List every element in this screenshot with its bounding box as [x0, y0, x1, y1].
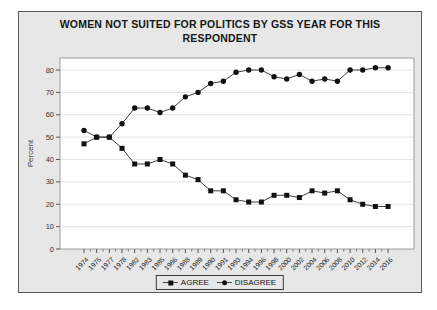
chart-legend: AGREE DISAGREE: [156, 275, 284, 290]
data-point-disagree: [233, 70, 238, 75]
data-point-disagree: [107, 134, 112, 139]
legend-item-agree: AGREE: [163, 278, 209, 287]
x-tick-label: 1986: [163, 256, 179, 272]
y-tick-label: 30: [46, 177, 54, 186]
data-point-disagree: [360, 67, 365, 72]
x-tick-label: 1975: [87, 256, 103, 272]
x-tick-label: 2006: [315, 256, 331, 272]
data-point-agree: [208, 188, 213, 193]
data-point-disagree: [246, 67, 251, 72]
data-point-disagree: [271, 74, 276, 79]
data-point-disagree: [157, 110, 162, 115]
y-tick-label: 70: [46, 88, 54, 97]
x-tick-label: 1998: [264, 256, 280, 272]
x-tick-label: 1990: [201, 256, 217, 272]
data-point-disagree: [322, 76, 327, 81]
x-tick-label: 1994: [239, 256, 255, 272]
legend-item-disagree: DISAGREE: [217, 278, 276, 287]
legend-label-disagree: DISAGREE: [235, 278, 276, 287]
data-point-agree: [132, 161, 137, 166]
x-tick-label: 2008: [327, 256, 343, 272]
x-tick-label: 1993: [226, 256, 242, 272]
data-point-disagree: [132, 105, 137, 110]
x-tick-label: 1978: [112, 256, 128, 272]
y-tick-label: 0: [50, 245, 54, 254]
agree-line-marker-icon: [163, 278, 178, 287]
data-point-disagree: [385, 65, 390, 70]
data-point-agree: [322, 191, 327, 196]
data-point-agree: [234, 197, 239, 202]
data-point-disagree: [347, 67, 352, 72]
x-tick-label: 2000: [277, 256, 293, 272]
y-tick-label: 50: [46, 133, 54, 142]
data-point-disagree: [309, 78, 314, 83]
y-tick-label: 80: [46, 66, 54, 75]
data-point-agree: [170, 161, 175, 166]
y-tick-label: 10: [46, 222, 54, 231]
x-tick-label: 1974: [74, 256, 90, 272]
data-point-disagree: [221, 78, 226, 83]
line-chart-canvas: 01020304050607080Percent1974197519771978…: [19, 12, 423, 294]
chart-figure-panel: WOMEN NOT SUITED FOR POLITICS BY GSS YEA…: [18, 11, 422, 293]
data-point-agree: [284, 193, 289, 198]
data-point-agree: [82, 141, 87, 146]
data-point-agree: [145, 161, 150, 166]
x-tick-label: 1982: [125, 256, 141, 272]
data-point-disagree: [208, 81, 213, 86]
data-point-disagree: [170, 105, 175, 110]
data-point-disagree: [335, 78, 340, 83]
data-point-disagree: [119, 121, 124, 126]
x-tick-label: 1996: [251, 256, 267, 272]
data-point-disagree: [145, 105, 150, 110]
data-point-disagree: [94, 134, 99, 139]
data-point-disagree: [297, 72, 302, 77]
x-tick-label: 1989: [188, 256, 204, 272]
x-tick-label: 1985: [150, 256, 166, 272]
x-tick-label: 2016: [378, 256, 394, 272]
x-tick-label: 2010: [340, 256, 356, 272]
y-tick-label: 40: [46, 155, 54, 164]
data-point-agree: [158, 157, 163, 162]
x-tick-label: 1977: [99, 256, 115, 272]
data-point-disagree: [81, 128, 86, 133]
x-tick-label: 1991: [213, 256, 229, 272]
x-tick-label: 2004: [302, 256, 318, 272]
data-point-agree: [196, 177, 201, 182]
data-point-agree: [272, 193, 277, 198]
data-point-agree: [246, 200, 251, 205]
data-point-agree: [348, 197, 353, 202]
data-point-agree: [310, 188, 315, 193]
data-point-agree: [120, 146, 125, 151]
data-point-disagree: [373, 65, 378, 70]
data-point-agree: [183, 173, 188, 178]
data-point-agree: [221, 188, 226, 193]
x-tick-label: 1988: [175, 256, 191, 272]
data-point-agree: [373, 204, 378, 209]
data-point-disagree: [183, 94, 188, 99]
plot-area: [60, 58, 414, 249]
data-point-agree: [259, 200, 264, 205]
data-point-agree: [335, 188, 340, 193]
chart-title: WOMEN NOT SUITED FOR POLITICS BY GSS YEA…: [44, 18, 396, 45]
data-point-disagree: [259, 67, 264, 72]
legend-label-agree: AGREE: [181, 278, 209, 287]
disagree-line-marker-icon: [217, 278, 232, 287]
x-tick-label: 2014: [365, 256, 381, 272]
x-tick-label: 2012: [353, 256, 369, 272]
y-tick-label: 20: [46, 200, 54, 209]
data-point-agree: [360, 202, 365, 207]
data-point-agree: [386, 204, 391, 209]
data-point-disagree: [284, 76, 289, 81]
y-tick-label: 60: [46, 110, 54, 119]
data-point-disagree: [195, 90, 200, 95]
data-point-agree: [297, 195, 302, 200]
x-tick-label: 1983: [137, 256, 153, 272]
x-tick-label: 2002: [289, 256, 305, 272]
y-axis-title: Percent: [26, 139, 35, 167]
